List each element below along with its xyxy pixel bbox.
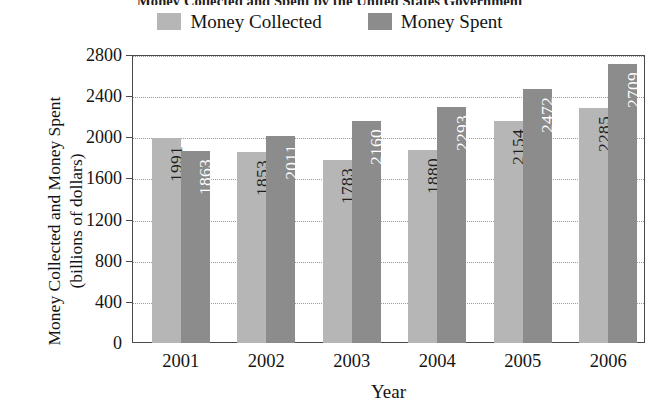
legend-item-money-collected: Money Collected (157, 12, 321, 31)
x-axis-tick-label: 2001 (141, 350, 221, 372)
x-axis-title: Year (132, 381, 645, 403)
bar-group: 22852709 (579, 55, 637, 343)
x-axis-tick-label: 2006 (568, 350, 648, 372)
x-axis-tick-labels: 200120022003200420052006 (132, 350, 645, 376)
bar-chart: Money Collected and Spent by the United … (0, 0, 660, 414)
y-axis-tick-label: 800 (66, 252, 122, 270)
legend-swatch-money-collected (157, 13, 181, 30)
bar-2002-collected: 1853 (237, 152, 266, 343)
bar-group: 18802293 (408, 55, 466, 343)
y-axis-tick-label: 2400 (66, 87, 122, 105)
bar-2003-collected: 1783 (323, 160, 352, 343)
bar-2003-spent: 2160 (352, 121, 381, 343)
x-axis-tick-label: 2002 (226, 350, 306, 372)
bar-value-label: 1863 (195, 159, 215, 195)
bar-value-label: 2293 (452, 115, 472, 151)
bars-layer: 1991186318532011178321601880229321542472… (132, 55, 645, 343)
y-axis-tick-label: 1200 (66, 211, 122, 229)
y-axis-tick-label: 400 (66, 293, 122, 311)
bar-2001-spent: 1863 (181, 151, 210, 343)
bar-2006-collected: 2285 (579, 108, 608, 343)
bar-2002-spent: 2011 (266, 136, 295, 343)
bar-2005-collected: 2154 (494, 121, 523, 343)
bar-group: 18532011 (237, 55, 295, 343)
bar-value-label: 2160 (366, 129, 386, 165)
x-axis-tick-label: 2005 (483, 350, 563, 372)
x-axis-tick-label: 2004 (397, 350, 477, 372)
bar-2001-collected: 1991 (152, 138, 181, 343)
bar-value-label: 2472 (537, 97, 557, 133)
y-axis-tick-labels: 040080012001600200024002800 (60, 0, 122, 414)
y-axis-tick-label: 2800 (66, 46, 122, 64)
bar-group: 21542472 (494, 55, 552, 343)
bar-2004-spent: 2293 (437, 107, 466, 343)
y-axis-tick-label: 1600 (66, 169, 122, 187)
bar-2006-spent: 2709 (608, 64, 637, 343)
bar-group: 19911863 (152, 55, 210, 343)
x-axis-tick-label: 2003 (312, 350, 392, 372)
bar-value-label: 2709 (623, 72, 643, 108)
bar-2005-spent: 2472 (523, 89, 552, 343)
bar-2004-collected: 1880 (408, 150, 437, 343)
legend-label-money-spent: Money Spent (401, 12, 503, 31)
bar-value-label: 2011 (281, 144, 301, 180)
y-axis-tick-label: 0 (66, 334, 122, 352)
y-axis-tick-label: 2000 (66, 128, 122, 146)
legend-label-money-collected: Money Collected (190, 12, 321, 31)
legend-item-money-spent: Money Spent (368, 12, 503, 31)
legend-swatch-money-spent (368, 13, 392, 30)
bar-group: 17832160 (323, 55, 381, 343)
